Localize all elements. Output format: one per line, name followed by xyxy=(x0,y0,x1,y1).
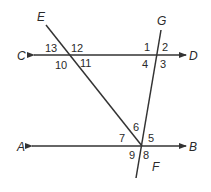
angle-label-11: 11 xyxy=(80,57,91,69)
angle-label-12: 12 xyxy=(71,42,83,54)
angle-label-5: 5 xyxy=(148,132,154,144)
point-label-d: D xyxy=(189,49,198,63)
point-label-g: G xyxy=(157,14,166,28)
angle-label-6: 6 xyxy=(133,121,139,133)
angle-label-4: 4 xyxy=(142,58,148,70)
point-label-e: E xyxy=(37,10,46,24)
transversal-e xyxy=(46,25,142,146)
angle-label-9: 9 xyxy=(129,149,135,161)
point-label-f: F xyxy=(152,160,160,174)
angle-label-3: 3 xyxy=(160,58,166,70)
angle-label-8: 8 xyxy=(143,149,149,161)
geometry-diagram: E G C D A B F 13 12 10 11 1 2 4 3 6 7 5 … xyxy=(0,0,211,192)
angle-label-13: 13 xyxy=(45,42,57,54)
point-label-b: B xyxy=(189,140,197,154)
angle-label-10: 10 xyxy=(55,59,67,71)
angle-label-1: 1 xyxy=(144,41,150,53)
point-label-a: A xyxy=(16,140,25,154)
point-label-c: C xyxy=(17,49,26,63)
angle-label-2: 2 xyxy=(162,41,168,53)
angle-label-7: 7 xyxy=(119,132,125,144)
